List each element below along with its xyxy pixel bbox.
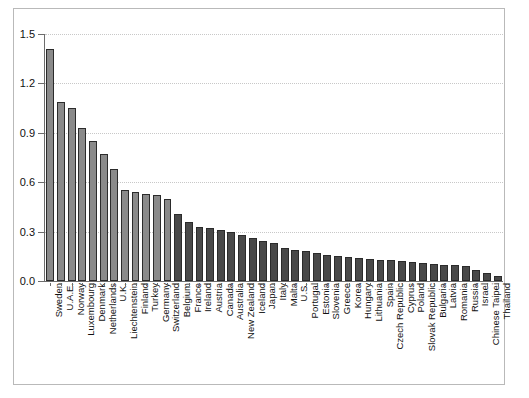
bar[interactable] xyxy=(398,261,406,281)
y-tick-mark xyxy=(38,83,44,84)
y-tick-mark xyxy=(38,133,44,134)
bar[interactable] xyxy=(409,262,417,281)
bar[interactable] xyxy=(185,222,193,281)
x-tick-mark xyxy=(370,283,371,286)
bar[interactable] xyxy=(387,260,395,281)
bar[interactable] xyxy=(291,250,299,281)
x-tick-mark xyxy=(306,283,307,286)
bar[interactable] xyxy=(451,265,459,281)
x-tick-mark xyxy=(274,283,275,286)
x-axis-label: Turkey xyxy=(150,283,160,312)
bar[interactable] xyxy=(472,270,480,281)
y-tick-label: 0.9 xyxy=(20,127,35,138)
bar[interactable] xyxy=(100,154,108,281)
bar[interactable] xyxy=(355,258,363,281)
x-axis-line xyxy=(38,281,503,282)
bar[interactable] xyxy=(196,227,204,281)
x-tick-mark xyxy=(253,283,254,286)
x-axis-label: Czech Republic xyxy=(395,283,405,350)
x-tick-mark xyxy=(381,283,382,286)
bar[interactable] xyxy=(483,273,491,281)
bar[interactable] xyxy=(217,230,225,281)
x-axis-label: Poland xyxy=(416,283,426,313)
bar[interactable] xyxy=(238,235,246,281)
bar[interactable] xyxy=(377,260,385,281)
x-axis-label: Slovak Republic xyxy=(427,283,437,351)
x-axis-label: Malta xyxy=(289,283,299,306)
bar[interactable] xyxy=(302,251,310,281)
x-tick-mark xyxy=(327,283,328,286)
bar[interactable] xyxy=(323,255,331,281)
x-tick-mark xyxy=(317,283,318,286)
bar[interactable] xyxy=(366,259,374,281)
bar[interactable] xyxy=(419,263,427,281)
y-tick-label: 1.2 xyxy=(20,78,35,89)
x-axis-label: Thailand xyxy=(502,283,512,319)
bar[interactable] xyxy=(430,264,438,281)
bar[interactable] xyxy=(78,128,86,281)
x-axis-label: Denmark xyxy=(97,283,107,322)
bar[interactable] xyxy=(110,169,118,281)
x-tick-mark xyxy=(455,283,456,286)
bar[interactable] xyxy=(174,214,182,282)
bar[interactable] xyxy=(132,192,140,281)
x-axis-label: Austria xyxy=(214,283,224,313)
x-tick-mark xyxy=(402,283,403,286)
x-axis-label: U.A.E. xyxy=(65,283,75,310)
x-axis-label: Luxembourg xyxy=(86,283,96,336)
bar[interactable] xyxy=(164,199,172,281)
x-axis-label: Russia xyxy=(470,283,480,312)
bar[interactable] xyxy=(313,253,321,281)
x-axis-label: Latvia xyxy=(448,283,458,308)
x-axis-label: U.K. xyxy=(118,283,128,301)
x-axis-label: Korea xyxy=(353,283,363,308)
bar[interactable] xyxy=(259,241,267,281)
bar[interactable] xyxy=(206,228,214,281)
x-tick-mark xyxy=(295,283,296,286)
x-tick-mark xyxy=(82,283,83,286)
bar[interactable] xyxy=(462,266,470,281)
x-axis-labels: SwedenU.A.E.NorwayLuxembourgDenmarkNethe… xyxy=(45,283,503,383)
x-tick-mark xyxy=(444,283,445,286)
bar[interactable] xyxy=(270,243,278,281)
bar[interactable] xyxy=(227,232,235,281)
bar[interactable] xyxy=(281,248,289,281)
bar[interactable] xyxy=(142,194,150,281)
bar[interactable] xyxy=(46,49,54,281)
x-tick-mark xyxy=(50,283,51,286)
x-tick-mark xyxy=(72,283,73,286)
bar[interactable] xyxy=(153,195,161,281)
x-tick-mark xyxy=(167,283,168,286)
bar[interactable] xyxy=(68,108,76,281)
x-tick-mark xyxy=(189,283,190,286)
x-axis-label: Italy xyxy=(278,283,288,300)
x-tick-mark xyxy=(104,283,105,286)
x-axis-label: Belgium xyxy=(182,283,192,317)
x-tick-mark xyxy=(125,283,126,286)
x-tick-mark xyxy=(412,283,413,286)
x-axis-label: Portugal xyxy=(310,283,320,318)
bar[interactable] xyxy=(440,265,448,281)
x-axis-label: Hungary xyxy=(363,283,373,319)
x-axis-label: Bulgaria xyxy=(438,283,448,318)
y-tick-mark xyxy=(38,34,44,35)
bar[interactable] xyxy=(57,102,65,281)
x-tick-mark xyxy=(466,283,467,286)
bar[interactable] xyxy=(89,141,97,281)
x-tick-mark xyxy=(349,283,350,286)
x-axis-label: Spain xyxy=(385,283,395,307)
x-tick-mark xyxy=(178,283,179,286)
x-axis-label: Estonia xyxy=(321,283,331,315)
x-tick-mark xyxy=(434,283,435,286)
bar[interactable] xyxy=(249,238,257,281)
x-tick-mark xyxy=(359,283,360,286)
x-axis-label: Japan xyxy=(267,283,277,309)
bar[interactable] xyxy=(345,257,353,281)
x-axis-label: Slovenia xyxy=(331,283,341,319)
x-axis-label: Ireland xyxy=(203,283,213,312)
bar[interactable] xyxy=(121,190,129,281)
x-axis-label: Chinese Taipei xyxy=(491,283,501,345)
y-tick-label: 0.3 xyxy=(20,226,35,237)
x-axis-label: Norway xyxy=(76,283,86,315)
bar[interactable] xyxy=(334,256,342,281)
